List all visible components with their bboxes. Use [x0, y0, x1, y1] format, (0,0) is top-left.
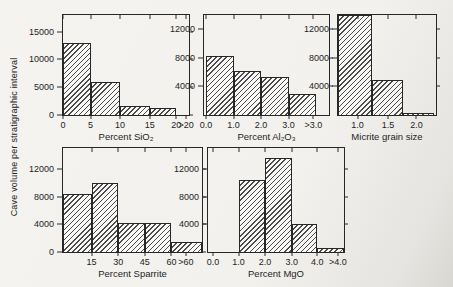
x-tick-mark: [91, 252, 92, 256]
x-tick-mark: [176, 15, 177, 19]
y-tick-mark: [57, 31, 63, 32]
histogram-bar: [145, 223, 172, 252]
x-tick-mark: [357, 115, 358, 119]
x-tick-mark: [149, 115, 150, 119]
x-tick-label: 2.0: [259, 257, 272, 267]
x-tick-mark: [233, 15, 234, 19]
y-tick-label: 0: [49, 110, 54, 120]
histogram-bar: [372, 80, 402, 115]
x-tick-label: >3.0: [304, 120, 322, 130]
chart-percent-mgo: 40008000120000.01.02.03.04.0>4.0 Percent…: [207, 147, 345, 253]
x-tick-mark: [144, 252, 145, 256]
x-tick-mark: [186, 252, 187, 256]
histogram-bar: [63, 43, 91, 115]
x-axis-title-sio2: Percent SiO₂: [52, 131, 200, 142]
x-tick-mark: [387, 115, 388, 119]
x-tick-label: 30: [113, 257, 123, 267]
histogram-bar: [403, 113, 434, 115]
y-tick-label: 4000: [309, 81, 329, 91]
x-tick-label: 1.0: [232, 257, 245, 267]
histogram-bar: [63, 194, 92, 252]
y-tick-mark: [344, 224, 348, 225]
plot-frame-mgo: 40008000120000.01.02.03.04.0>4.0: [207, 147, 345, 253]
x-tick-mark: [90, 15, 91, 19]
x-tick-mark: [176, 115, 177, 119]
x-tick-mark: [261, 115, 262, 119]
y-tick-mark: [198, 86, 204, 87]
y-tick-label: 12000: [29, 164, 54, 174]
histogram-bar: [91, 82, 120, 115]
y-tick-mark: [57, 196, 63, 197]
x-tick-mark: [337, 252, 338, 256]
x-tick-mark: [261, 15, 262, 19]
y-tick-mark: [202, 252, 206, 253]
x-tick-label: >4.0: [329, 257, 347, 267]
x-tick-mark: [144, 148, 145, 152]
histogram-bar: [292, 224, 318, 252]
x-tick-label: 5: [88, 120, 93, 130]
y-tick-mark: [57, 168, 63, 169]
x-tick-mark: [265, 148, 266, 152]
y-tick-mark: [189, 115, 193, 116]
y-tick-label: 8000: [179, 192, 199, 202]
histogram-bar: [150, 108, 176, 115]
x-tick-mark: [291, 148, 292, 152]
x-tick-mark: [149, 15, 150, 19]
x-tick-mark: [118, 252, 119, 256]
y-tick-mark: [198, 29, 204, 30]
x-axis-title-al2o3: Percent Al₂O₃: [193, 131, 340, 142]
x-tick-label: 3.0: [282, 120, 295, 130]
x-tick-label: >20: [178, 120, 193, 130]
x-tick-mark: [238, 252, 239, 256]
x-tick-mark: [120, 115, 121, 119]
x-tick-mark: [357, 15, 358, 19]
y-tick-label: 12000: [174, 164, 199, 174]
x-tick-mark: [291, 252, 292, 256]
x-tick-mark: [288, 15, 289, 19]
histogram-bar: [206, 56, 234, 115]
histogram-bar: [171, 242, 202, 252]
y-tick-mark: [202, 224, 208, 225]
x-tick-mark: [206, 15, 207, 19]
x-tick-label: 0.0: [207, 257, 220, 267]
x-tick-mark: [317, 252, 318, 256]
x-tick-mark: [416, 15, 417, 19]
y-tick-label: 12000: [304, 24, 329, 34]
x-tick-mark: [238, 148, 239, 152]
x-tick-mark: [90, 115, 91, 119]
chart-micrite-grain-size: 40008000120001.01.52.0 Micrite grain siz…: [337, 14, 437, 116]
x-tick-label: 3.0: [286, 257, 299, 267]
x-tick-mark: [63, 15, 64, 19]
plot-frame-micrite: 40008000120001.01.52.0: [337, 14, 437, 116]
x-tick-mark: [186, 148, 187, 152]
y-tick-label: 0: [49, 247, 54, 257]
histogram-bar: [265, 158, 292, 252]
x-tick-mark: [317, 148, 318, 152]
x-tick-label: 1.0: [227, 120, 240, 130]
x-tick-label: 2.0: [255, 120, 268, 130]
y-tick-mark: [332, 57, 338, 58]
x-tick-mark: [206, 115, 207, 119]
y-tick-mark: [57, 59, 63, 60]
y-tick-label: 4000: [34, 219, 54, 229]
x-tick-mark: [313, 15, 314, 19]
y-tick-mark: [332, 86, 338, 87]
histogram-bar: [317, 248, 344, 252]
x-tick-mark: [313, 115, 314, 119]
y-tick-mark: [436, 57, 440, 58]
y-tick-mark: [202, 196, 208, 197]
x-tick-label: 15: [145, 120, 155, 130]
histogram-bar: [289, 94, 317, 115]
x-tick-mark: [171, 148, 172, 152]
x-axis-title-sparrite: Percent Sparrite: [52, 268, 213, 279]
x-tick-mark: [288, 115, 289, 119]
y-tick-mark: [57, 252, 63, 253]
x-tick-label: 1.5: [382, 120, 395, 130]
y-tick-label: 8000: [309, 53, 329, 63]
histogram-panel-figure: Cave volume per stratigraphic interval 0…: [0, 0, 453, 287]
x-tick-mark: [171, 252, 172, 256]
x-tick-label: 45: [140, 257, 150, 267]
y-tick-mark: [344, 196, 348, 197]
histogram-bar: [92, 183, 119, 252]
y-tick-label: 4000: [175, 81, 195, 91]
